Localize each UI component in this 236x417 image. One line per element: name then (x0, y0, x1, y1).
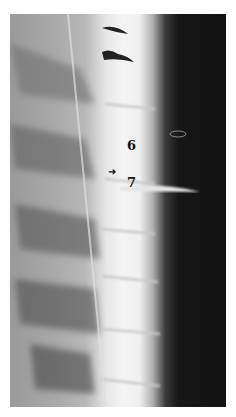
arrow-pointer-icon: ➜ (108, 166, 116, 177)
vertebra-label-7: 7 (127, 175, 136, 190)
vertebra-label-6: 6 (127, 138, 136, 153)
xray-structures (10, 14, 226, 407)
xray-image: 6 7 ➜ (10, 14, 226, 407)
